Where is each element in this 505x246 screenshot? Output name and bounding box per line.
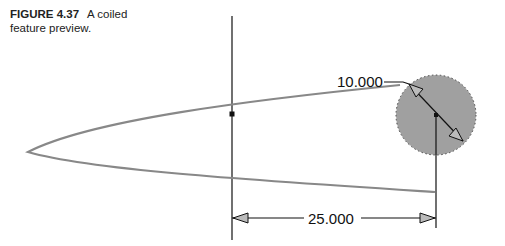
diameter-leader-line (384, 82, 409, 84)
coil-preview-drawing: 10.000 25.000 (0, 0, 505, 246)
length-dimension-value[interactable]: 25.000 (308, 210, 354, 227)
axis-point-marker[interactable] (230, 112, 235, 117)
length-arrow-end-icon (420, 213, 435, 223)
diameter-dimension-value[interactable]: 10.000 (337, 73, 383, 90)
length-arrow-start-icon (233, 213, 248, 223)
